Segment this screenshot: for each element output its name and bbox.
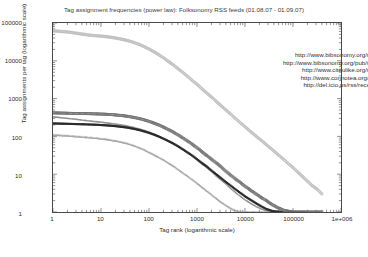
- x-axis-label: Tag rank (logarithmic scale): [52, 226, 342, 233]
- x-tick-label: 1e+006: [312, 215, 368, 222]
- legend-label: http://del.icio.us/rss/recent/: [303, 81, 368, 89]
- legend-item: http://www.bibsonomy.org/pub/rss/: [221, 59, 368, 67]
- legend-label: http://www.bibsonomy.org/rss/: [295, 51, 368, 59]
- plot-area: http://www.bibsonomy.org/rss/ http://www…: [52, 22, 342, 213]
- chart-page: Tag assignment frequencies (power law): …: [0, 0, 368, 257]
- chart-legend: http://www.bibsonomy.org/rss/ http://www…: [221, 51, 368, 89]
- y-tick-label: 10: [0, 172, 22, 179]
- series-points: [53, 134, 272, 212]
- y-tick-label: 1: [0, 210, 22, 217]
- legend-label: http://www.connotea.org/rss: [301, 74, 368, 82]
- legend-item: http://www.connotea.org/rss: [221, 74, 368, 82]
- legend-label: http://www.citeulike.org/rss/: [302, 66, 368, 74]
- chart-title: Tag assignment frequencies (power law): …: [0, 6, 368, 13]
- legend-item: http://www.citeulike.org/rss/: [221, 66, 368, 74]
- legend-item: http://www.bibsonomy.org/rss/: [221, 51, 368, 59]
- y-axis-label: Tag assignments per tag (logarithmic sca…: [20, 0, 27, 144]
- legend-label: http://www.bibsonomy.org/pub/rss/: [283, 59, 368, 67]
- series-points: [53, 112, 323, 212]
- legend-item: http://del.icio.us/rss/recent/: [221, 81, 368, 89]
